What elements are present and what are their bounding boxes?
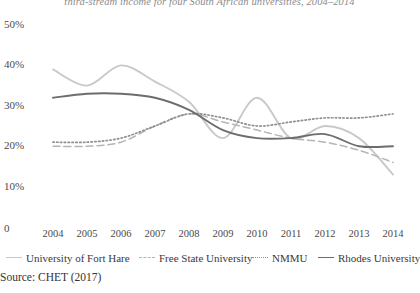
x-tick-label: 2014 (383, 228, 404, 239)
y-tick-label: 40% (4, 59, 48, 70)
legend-label: Rhodes University (338, 252, 420, 264)
legend-item-0[interactable]: University of Fort Hare (6, 252, 130, 264)
chart-legend: University of Fort HareFree State Univer… (6, 252, 419, 268)
legend-item-1[interactable]: Free State University (139, 252, 252, 264)
x-tick-label: 2009 (213, 228, 234, 239)
x-tick-label: 2012 (315, 228, 336, 239)
x-axis: 2004200520062007200820092010201120122013… (0, 228, 419, 244)
y-tick-label: 30% (4, 100, 48, 111)
x-tick-label: 2004 (43, 228, 64, 239)
x-tick-label: 2011 (281, 228, 302, 239)
x-tick-label: 2010 (247, 228, 268, 239)
x-tick-label: 2005 (77, 228, 98, 239)
x-tick-label: 2008 (179, 228, 200, 239)
plot-area (50, 20, 402, 227)
source-note: Source: CHET (2017) (0, 271, 101, 283)
legend-label: Free State University (159, 252, 252, 264)
legend-label: NMMU (272, 252, 307, 264)
series-lines (50, 20, 402, 227)
x-tick-label: 2006 (111, 228, 132, 239)
x-tick-label: 2007 (145, 228, 166, 239)
legend-swatch-icon (318, 254, 334, 262)
chart-title: third-stream income for four South Afric… (0, 0, 419, 8)
series-line-0 (53, 65, 393, 174)
legend-swatch-icon (139, 254, 155, 262)
y-tick-label: 50% (4, 19, 48, 30)
legend-item-2[interactable]: NMMU (252, 252, 307, 264)
legend-swatch-icon (252, 254, 268, 262)
legend-label: University of Fort Hare (26, 252, 130, 264)
y-axis: 010%20%30%40%50% (0, 0, 48, 240)
y-tick-label: 10% (4, 181, 48, 192)
legend-item-3[interactable]: Rhodes University (318, 252, 420, 264)
legend-swatch-icon (6, 254, 22, 262)
y-tick-label: 20% (4, 140, 48, 151)
x-tick-label: 2013 (349, 228, 370, 239)
